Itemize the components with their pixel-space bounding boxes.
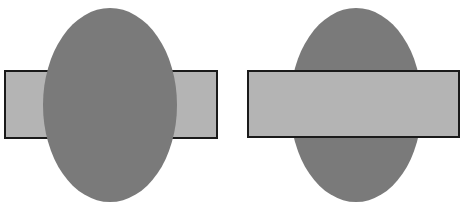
ellipse-front (43, 8, 177, 202)
diagram-canvas (0, 0, 462, 210)
panel-rectangle-in-front (248, 8, 459, 202)
panel-ellipse-in-front (5, 8, 217, 202)
rectangle-front (248, 71, 459, 137)
